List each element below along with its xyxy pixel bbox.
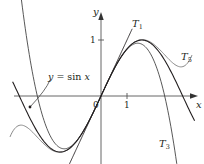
x-axis-label: x (196, 99, 202, 110)
y-axis-label: y (92, 6, 99, 17)
y-axis-arrow-icon (98, 12, 103, 20)
y-tick-label-1: 1 (90, 35, 96, 45)
taylor-polynomials-figure: y x 0 1 1 y = sin x T1 T5 T3 (0, 0, 204, 164)
t1-label: T1 (132, 18, 143, 31)
x-axis-arrow-icon (190, 93, 198, 98)
sin-label: y = sin x (47, 71, 90, 82)
t3-label: T3 (159, 138, 170, 151)
curves (10, 0, 195, 164)
t5-label: T5 (181, 51, 192, 64)
sin-label-pointer (30, 80, 50, 107)
origin-label: 0 (93, 100, 99, 110)
pointer-dot (29, 106, 32, 109)
t3-curve (20, 0, 177, 164)
x-tick-label-1: 1 (124, 100, 130, 110)
